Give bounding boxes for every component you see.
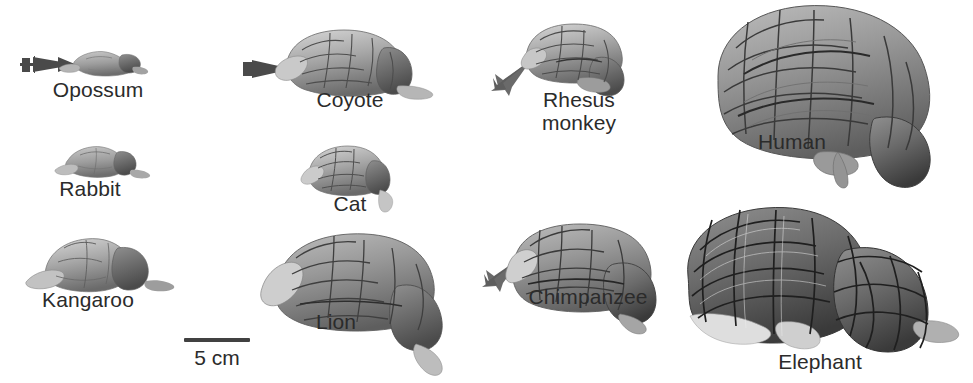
brain-image-chimpanzee [506,224,656,334]
specimen-label-coyote: Coyote [280,88,420,111]
scale-bar-label: 5 cm [184,346,250,370]
brain-image-opossum [59,51,148,76]
specimen-label-elephant: Elephant [740,350,900,373]
brain-size-comparison-figure: Opossum Rabbit Kangaroo Coyote Cat Lion … [0,0,973,383]
specimen-label-chimpanzee: Chimpanzee [498,285,678,308]
scale-bar-line [184,338,250,342]
specimen-label-rhesus-monkey: Rhesus monkey [514,88,644,134]
specimen-label-cat: Cat [290,192,410,215]
specimen-label-kangaroo: Kangaroo [8,288,168,311]
brain-image-rhesus-monkey [521,24,624,96]
specimen-label-rabbit: Rabbit [20,177,160,200]
brain-image-elephant [688,207,959,352]
brain-image-kangaroo [26,239,174,292]
brain-image-lion [261,234,443,376]
brain-image-rabbit [55,147,150,179]
specimen-label-opossum: Opossum [28,78,168,101]
specimen-label-lion: Lion [276,310,396,333]
specimen-label-human: Human [722,130,862,153]
brain-image-human [718,6,930,188]
